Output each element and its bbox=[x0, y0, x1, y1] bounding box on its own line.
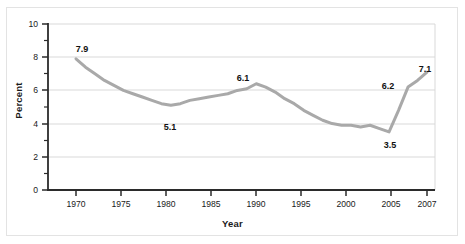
data-label-1980: 5.1 bbox=[164, 122, 177, 132]
x-tick-label: 2007 bbox=[417, 199, 436, 209]
x-tick-label: 1990 bbox=[246, 199, 265, 209]
data-label-2003: 3.5 bbox=[384, 140, 397, 150]
y-tick-label: 0 bbox=[33, 185, 38, 195]
x-tick-labels: 1970 1975 1980 1985 1990 1995 2000 2005 … bbox=[66, 199, 436, 209]
x-tick-label: 1985 bbox=[201, 199, 220, 209]
data-labels: 7.9 5.1 6.1 3.5 6.2 7.1 bbox=[76, 44, 432, 150]
x-axis-title: Year bbox=[0, 218, 465, 229]
x-tick-label: 2000 bbox=[336, 199, 355, 209]
data-label-2005: 6.2 bbox=[382, 81, 395, 91]
y-tick-label: 2 bbox=[33, 152, 38, 162]
data-label-1988: 6.1 bbox=[237, 73, 250, 83]
x-tick-label: 1970 bbox=[66, 199, 85, 209]
x-tick-label: 1980 bbox=[156, 199, 175, 209]
y-tick-label: 4 bbox=[33, 119, 38, 129]
x-tick-label: 1995 bbox=[291, 199, 310, 209]
y-axis bbox=[42, 23, 48, 190]
y-tick-labels: 10 8 6 4 2 0 bbox=[28, 19, 38, 195]
x-axis bbox=[47, 190, 435, 196]
chart-figure: 10 8 6 4 2 0 1970 1975 1980 1985 1990 19… bbox=[0, 0, 465, 244]
x-tick-label: 2005 bbox=[381, 199, 400, 209]
data-label-2007: 7.1 bbox=[419, 64, 432, 74]
y-tick-label: 8 bbox=[33, 52, 38, 62]
y-tick-label: 10 bbox=[28, 19, 38, 29]
data-series-line bbox=[76, 59, 427, 132]
data-label-1970: 7.9 bbox=[76, 44, 89, 54]
y-tick-label: 6 bbox=[33, 85, 38, 95]
x-tick-label: 1975 bbox=[111, 199, 130, 209]
line-chart: 10 8 6 4 2 0 1970 1975 1980 1985 1990 19… bbox=[0, 0, 465, 244]
y-axis-title: Percent bbox=[13, 71, 24, 131]
